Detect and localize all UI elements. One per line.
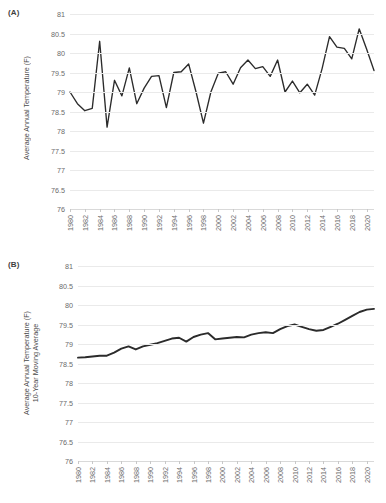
gridline — [70, 209, 374, 210]
x-axis-tick-mark — [189, 209, 190, 212]
y-axis-tick-label: 78 — [57, 127, 65, 136]
x-axis-tick-label: 1990 — [140, 215, 149, 231]
x-axis-tick-mark — [352, 209, 353, 212]
x-axis-tick-label: 2020 — [363, 467, 372, 483]
y-axis-tick-label: 78.5 — [59, 359, 73, 368]
x-axis-tick-label: 2000 — [214, 215, 223, 231]
x-axis-tick-label: 1998 — [204, 467, 213, 483]
x-axis-tick-mark — [129, 209, 130, 212]
x-axis-tick-label: 1992 — [161, 467, 170, 483]
x-axis-tick-mark — [280, 461, 281, 464]
panel-b-y-axis-title-line2: 10-Year Moving Average — [30, 265, 39, 460]
panel-b-line-path — [78, 309, 374, 358]
y-axis-tick-label: 77.5 — [51, 146, 65, 155]
x-axis-tick-label: 1980 — [66, 215, 75, 231]
y-axis-tick-label: 78.5 — [51, 107, 65, 116]
x-axis-tick-mark — [159, 209, 160, 212]
y-axis-tick-label: 80.5 — [51, 29, 65, 38]
x-axis-tick-label: 2002 — [229, 215, 238, 231]
y-axis-tick-label: 79.5 — [59, 320, 73, 329]
x-axis-tick-label: 1984 — [96, 215, 105, 231]
y-axis-tick-label: 79 — [65, 340, 73, 349]
x-axis-tick-mark — [367, 209, 368, 212]
gridline — [78, 364, 374, 365]
x-axis-tick-mark — [222, 461, 223, 464]
x-axis-tick-mark — [233, 209, 234, 212]
gridline — [78, 461, 374, 462]
x-axis-tick-label: 2004 — [244, 215, 253, 231]
x-axis-tick-label: 2018 — [348, 215, 357, 231]
gridline — [78, 266, 374, 267]
x-axis-tick-label: 2012 — [305, 467, 314, 483]
gridline — [70, 34, 374, 35]
gridline — [70, 190, 374, 191]
gridline — [70, 73, 374, 74]
gridline — [70, 170, 374, 171]
panel-b-y-axis-title: Average Annual Temperature (F) 10-Year M… — [21, 265, 39, 460]
x-axis-tick-mark — [194, 461, 195, 464]
x-axis-tick-label: 1986 — [117, 467, 126, 483]
x-axis-tick-mark — [295, 461, 296, 464]
panel-b-y-axis-title-line1: Average Annual Temperature (F) — [21, 265, 30, 460]
x-axis-tick-label: 1982 — [88, 467, 97, 483]
x-axis-tick-mark — [367, 461, 368, 464]
x-axis-tick-label: 2000 — [218, 467, 227, 483]
x-axis-tick-mark — [150, 461, 151, 464]
gridline — [78, 403, 374, 404]
x-axis-tick-mark — [144, 209, 145, 212]
x-axis-tick-mark — [174, 209, 175, 212]
x-axis-tick-mark — [218, 209, 219, 212]
y-axis-tick-label: 80.5 — [59, 281, 73, 290]
x-axis-tick-label: 2016 — [333, 215, 342, 231]
x-axis-tick-label: 2002 — [233, 467, 242, 483]
x-axis-tick-mark — [278, 209, 279, 212]
x-axis-tick-mark — [337, 209, 338, 212]
y-axis-tick-label: 79 — [57, 88, 65, 97]
x-axis-tick-mark — [251, 461, 252, 464]
y-axis-tick-label: 76.5 — [59, 437, 73, 446]
x-axis-tick-label: 2014 — [318, 215, 327, 231]
y-axis-tick-label: 79.5 — [51, 68, 65, 77]
y-axis-tick-label: 80 — [57, 49, 65, 58]
x-axis-tick-mark — [100, 209, 101, 212]
x-axis-tick-label: 1984 — [103, 467, 112, 483]
gridline — [78, 442, 374, 443]
gridline — [78, 286, 374, 287]
x-axis-tick-mark — [322, 209, 323, 212]
x-axis-tick-mark — [208, 461, 209, 464]
x-axis-tick-mark — [121, 461, 122, 464]
x-axis-tick-label: 2010 — [291, 467, 300, 483]
x-axis-tick-mark — [78, 461, 79, 464]
x-axis-tick-mark — [92, 461, 93, 464]
y-axis-tick-label: 76 — [57, 205, 65, 214]
y-axis-tick-label: 81 — [57, 10, 65, 19]
figure-container: (A) Average Annual Temperature (F) 7676.… — [0, 0, 386, 503]
x-axis-tick-mark — [107, 461, 108, 464]
x-axis-tick-mark — [263, 209, 264, 212]
x-axis-tick-mark — [237, 461, 238, 464]
x-axis-tick-label: 1994 — [175, 467, 184, 483]
x-axis-tick-label: 2010 — [288, 215, 297, 231]
x-axis-tick-label: 1996 — [185, 215, 194, 231]
gridline — [70, 14, 374, 15]
gridline — [78, 305, 374, 306]
y-axis-tick-label: 78 — [65, 379, 73, 388]
gridline — [70, 92, 374, 93]
x-axis-tick-mark — [307, 209, 308, 212]
y-axis-tick-label: 77.5 — [59, 398, 73, 407]
x-axis-tick-label: 2016 — [334, 467, 343, 483]
gridline — [78, 344, 374, 345]
x-axis-tick-mark — [309, 461, 310, 464]
x-axis-tick-label: 1990 — [146, 467, 155, 483]
y-axis-tick-label: 76 — [65, 457, 73, 466]
x-axis-tick-label: 2004 — [247, 467, 256, 483]
gridline — [78, 383, 374, 384]
y-axis-tick-label: 76.5 — [51, 185, 65, 194]
x-axis-tick-mark — [136, 461, 137, 464]
x-axis-tick-label: 2006 — [262, 467, 271, 483]
x-axis-tick-label: 2014 — [319, 467, 328, 483]
y-axis-tick-label: 77 — [57, 166, 65, 175]
x-axis-tick-label: 2018 — [348, 467, 357, 483]
x-axis-tick-mark — [114, 209, 115, 212]
gridline — [70, 53, 374, 54]
